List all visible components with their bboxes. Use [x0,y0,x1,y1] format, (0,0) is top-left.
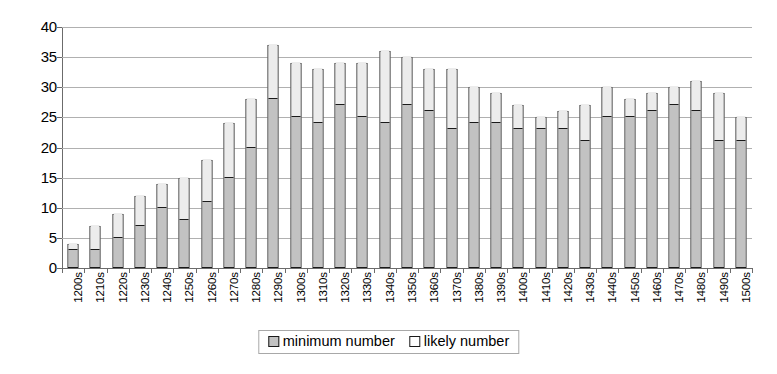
bar-1240s [157,184,168,268]
bar-segment-likely-number [581,104,590,140]
x-axis-labels: 1200s1210s1220s1230s1240s1250s1260s1270s… [62,274,752,334]
x-axis-tick-label: 1240s [162,272,174,332]
bar-segment-minimum-number [647,110,656,267]
bar-segment-likely-number [247,98,256,146]
bar-segment-minimum-number [625,116,634,267]
bar-1230s [134,196,145,268]
bar-segment-minimum-number [447,128,456,267]
x-axis-tick-label: 1250s [184,272,196,332]
bar-segment-minimum-number [514,128,523,267]
bar-1280s [246,99,257,268]
x-axis-tick-mark [440,268,441,273]
y-axis-tick-label: 25 [5,109,57,124]
bar-segment-likely-number [291,62,300,116]
bar-segment-likely-number [625,98,634,116]
bar-slot [574,27,596,268]
bar-segment-minimum-number [536,128,545,267]
bar-segment-likely-number [558,110,567,128]
legend-swatch-icon [409,336,420,347]
bar-1410s [535,117,546,268]
bar-segment-likely-number [492,92,501,122]
x-axis-tick-label: 1280s [251,272,263,332]
bar-segment-likely-number [269,44,278,98]
x-axis-tick-mark [618,268,619,273]
bar-segment-likely-number [202,159,211,201]
legend-swatch-icon [268,336,279,347]
bar-slot [485,27,507,268]
bar-1250s [179,178,190,268]
bar-segment-likely-number [180,177,189,219]
bar-1270s [223,123,234,268]
bar-1430s [580,105,591,268]
bar-1480s [691,81,702,268]
bar-segment-minimum-number [69,249,78,267]
bar-segment-minimum-number [692,110,701,267]
bar-segment-minimum-number [247,147,256,268]
bar-1450s [624,99,635,268]
x-axis-tick-label: 1420s [563,272,575,332]
bar-segment-likely-number [380,50,389,122]
bar-1380s [468,87,479,268]
y-axis-tick-label: 20 [5,140,57,155]
chart-legend: minimum numberlikely number [258,330,519,354]
bar-segment-likely-number [603,86,612,116]
bar-slot [329,27,351,268]
bar-slot [440,27,462,268]
bar-slot [529,27,551,268]
bar-segment-minimum-number [358,116,367,267]
bar-slot [84,27,106,268]
bar-segment-minimum-number [313,122,322,267]
bar-segment-likely-number [736,116,745,140]
x-axis-tick-label: 1450s [630,272,642,332]
bar-1370s [446,69,457,268]
bar-slot [107,27,129,268]
bar-1300s [290,63,301,268]
bar-segment-minimum-number [469,122,478,267]
bar-slot [62,27,84,268]
legend-item-minimum[interactable]: minimum number [268,334,395,349]
bar-slot [641,27,663,268]
bar-segment-minimum-number [736,140,745,267]
bar-1340s [379,51,390,268]
x-axis-tick-label: 1320s [340,272,352,332]
bar-slot [685,27,707,268]
x-axis-tick-label: 1350s [407,272,419,332]
bar-slot [374,27,396,268]
bar-1500s [735,117,746,268]
x-axis-tick-label: 1270s [229,272,241,332]
bar-segment-minimum-number [224,177,233,267]
bar-slot [218,27,240,268]
bar-1310s [312,69,323,268]
bar-segment-minimum-number [402,104,411,267]
x-axis-tick-label: 1460s [652,272,664,332]
x-axis-tick-mark [62,268,63,273]
x-axis-tick-label: 1220s [118,272,130,332]
y-axis-tick-label: 15 [5,170,57,185]
bar-slot [240,27,262,268]
bar-segment-minimum-number [158,207,167,267]
bar-segment-likely-number [135,195,144,225]
bar-slot [663,27,685,268]
bar-segment-likely-number [313,68,322,122]
bar-segment-likely-number [447,68,456,128]
bar-segment-minimum-number [91,249,100,267]
bar-segment-minimum-number [581,140,590,267]
bar-1330s [357,63,368,268]
bar-segment-minimum-number [492,122,501,267]
y-axis: 4035302520151050 [0,27,57,268]
bar-segment-likely-number [224,122,233,176]
bar-1320s [335,63,346,268]
x-axis-tick-label: 1390s [496,272,508,332]
bar-segment-likely-number [714,92,723,140]
bar-segment-likely-number [514,104,523,128]
legend-item-likely[interactable]: likely number [409,334,509,349]
bars-layer [62,27,752,268]
bar-1260s [201,160,212,268]
x-axis-tick-label: 1440s [607,272,619,332]
bar-1440s [602,87,613,268]
bar-slot [507,27,529,268]
bar-slot [463,27,485,268]
x-axis-tick-label: 1210s [95,272,107,332]
bar-slot [173,27,195,268]
x-axis-tick-label: 1200s [73,272,85,332]
